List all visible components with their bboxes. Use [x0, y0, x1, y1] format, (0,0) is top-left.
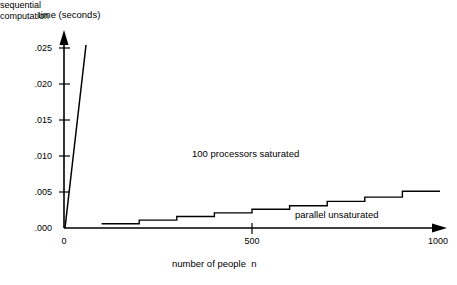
- x-tick-label-500: 500: [232, 236, 272, 247]
- chart-figure: time (seconds) number of people n .025 .…: [0, 0, 457, 285]
- x-tick-label-1000: 1000: [418, 236, 457, 247]
- y-axis: [60, 30, 69, 228]
- y-tick-label-005: .005: [22, 187, 52, 198]
- x-axis-title: number of people n: [172, 258, 257, 269]
- y-tick-label-015: .015: [22, 115, 52, 126]
- series-sequential-computation: [65, 45, 86, 228]
- annotation-parallel-unsaturated: parallel unsaturated: [295, 209, 378, 220]
- x-axis: [64, 224, 447, 233]
- y-tick-label-025: .025: [22, 43, 52, 54]
- y-tick-label-010: .010: [22, 151, 52, 162]
- y-tick-label-000: .000: [22, 223, 52, 234]
- series-parallel-unsaturated: [102, 191, 440, 223]
- y-axis-title: time (seconds): [38, 9, 100, 20]
- x-tick-label-0: 0: [44, 236, 84, 247]
- annotation-processors-saturated: 100 processors saturated: [192, 148, 299, 159]
- y-tick-label-020: .020: [22, 79, 52, 90]
